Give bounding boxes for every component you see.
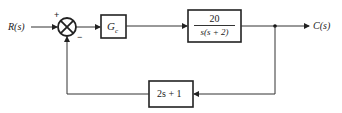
- plant-transfer-function: 20 s(s + 2): [194, 14, 235, 37]
- plus-sign: +: [54, 11, 59, 20]
- output-label: C(s): [313, 21, 330, 31]
- feedback-label: 2s + 1: [157, 89, 182, 99]
- controller-label-sub: c: [115, 27, 118, 35]
- plant-denominator: s(s + 2): [200, 26, 228, 37]
- controller-label-main: G: [107, 20, 115, 32]
- block-diagram: R(s) + − Gc 20 s(s + 2) C(s) 2s + 1: [0, 0, 342, 113]
- minus-sign: −: [77, 33, 82, 42]
- plant-numerator: 20: [210, 14, 220, 25]
- input-label: R(s): [8, 22, 25, 32]
- controller-label: Gc: [107, 21, 118, 35]
- summing-junction: [58, 18, 76, 36]
